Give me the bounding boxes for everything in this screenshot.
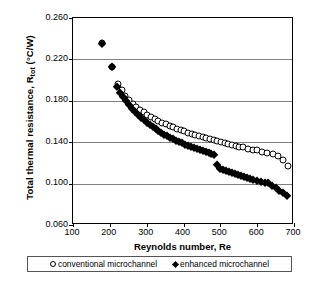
y-axis-tick-mark	[69, 184, 73, 185]
x-axis-tick-labels: 100200300400500600700	[0, 227, 320, 241]
x-axis-tick-label: 600	[236, 227, 276, 237]
x-axis-tick-label: 200	[89, 227, 129, 237]
gridline	[73, 101, 292, 102]
x-axis-tick-label: 400	[163, 227, 203, 237]
y-axis-tick-label: 0.180	[28, 95, 68, 104]
gridline	[73, 59, 292, 60]
x-axis-tick-label: 700	[273, 227, 313, 237]
x-axis-tick-label: 500	[199, 227, 239, 237]
y-axis-tick-label: 0.100	[28, 178, 68, 187]
y-axis-tick-mark	[69, 142, 73, 143]
y-axis-tick-labels: 0.0600.1000.1400.1800.2200.260	[26, 0, 68, 288]
legend-item-conventional: conventional microchannel	[50, 259, 157, 269]
y-axis-tick-mark	[69, 59, 73, 60]
legend-label-enhanced: enhanced microchannel	[180, 259, 269, 269]
chart-figure: Total thermal resistance, Rtot (°C/W) 0.…	[0, 0, 320, 288]
open-circle-icon	[50, 261, 56, 267]
chart-legend: conventional microchannel enhanced micro…	[27, 256, 292, 272]
legend-item-enhanced: enhanced microchannel	[173, 259, 269, 269]
x-axis-title: Reynolds number, Re	[72, 241, 293, 252]
filled-diamond-icon	[172, 260, 179, 267]
plot-area	[72, 17, 293, 224]
y-axis-tick-label: 0.260	[28, 13, 68, 22]
data-point-filled-diamond	[107, 63, 116, 72]
y-axis-tick-label: 0.220	[28, 54, 68, 63]
data-point-open-circle	[285, 162, 292, 169]
legend-label-conventional: conventional microchannel	[58, 259, 157, 269]
y-axis-tick-mark	[69, 18, 73, 19]
x-axis-tick-label: 300	[126, 227, 166, 237]
x-axis-tick-label: 100	[52, 227, 92, 237]
y-axis-tick-mark	[69, 101, 73, 102]
y-axis-tick-label: 0.140	[28, 137, 68, 146]
